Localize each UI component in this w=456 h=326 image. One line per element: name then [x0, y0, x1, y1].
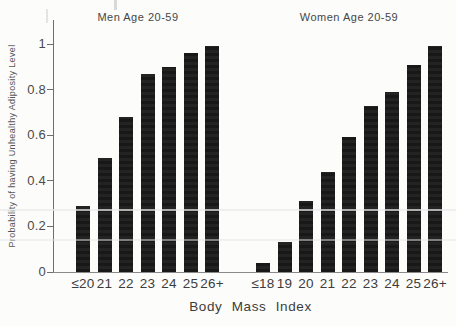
y-tick-label: 0 [12, 264, 46, 280]
y-tick-label: 0.2 [12, 218, 46, 234]
x-tick-label: ≤20 [71, 276, 94, 291]
y-tick-label: 1 [12, 36, 46, 52]
bar [342, 137, 356, 272]
bar [385, 92, 399, 272]
y-tick-mark [47, 44, 53, 45]
x-tick-label: 21 [97, 276, 112, 291]
y-tick-label: 0.6 [12, 127, 46, 143]
y-tick-label: 0.4 [12, 173, 46, 189]
y-tick-mark [47, 272, 53, 273]
y-axis-line [53, 20, 54, 273]
x-tick-label: 23 [140, 276, 155, 291]
x-tick-label: ≤18 [251, 276, 274, 291]
bar [141, 74, 155, 272]
panel-title: Men Age 20-59 [97, 11, 178, 23]
bmi-adiposity-bar-chart: Probability of having Unhealthy Adiposit… [0, 0, 456, 326]
x-tick-label: 26+ [423, 276, 447, 291]
scan-artifact-smudge [46, 9, 48, 23]
bar [256, 263, 270, 272]
bar [162, 67, 176, 272]
x-axis-title: Body Mass Index [53, 299, 448, 314]
y-tick-mark [47, 226, 53, 227]
scan-artifact-smudge [114, 0, 117, 10]
y-tick-mark [47, 135, 53, 136]
bar [321, 172, 335, 272]
y-axis-title: Probability of having Unhealthy Adiposit… [7, 44, 17, 247]
bar [299, 201, 313, 272]
y-tick-mark [47, 89, 53, 90]
scan-artifact-streak [0, 239, 456, 241]
x-tick-label: 23 [363, 276, 378, 291]
x-tick-label: 22 [341, 276, 356, 291]
x-tick-label: 21 [320, 276, 335, 291]
x-tick-label: 25 [406, 276, 421, 291]
x-tick-label: 19 [277, 276, 292, 291]
y-tick-label: 0.8 [12, 82, 46, 98]
bar [364, 106, 378, 272]
x-tick-label: 25 [183, 276, 198, 291]
panel-title: Women Age 20-59 [300, 11, 398, 23]
bar [98, 158, 112, 272]
scan-artifact-streak [0, 209, 456, 211]
bar [119, 117, 133, 272]
x-tick-label: 20 [298, 276, 313, 291]
y-tick-mark [47, 180, 53, 181]
x-tick-label: 24 [161, 276, 176, 291]
bar [278, 242, 292, 272]
x-axis-line [53, 272, 448, 273]
x-tick-label: 24 [384, 276, 399, 291]
x-tick-label: 22 [118, 276, 133, 291]
x-tick-label: 26+ [200, 276, 224, 291]
